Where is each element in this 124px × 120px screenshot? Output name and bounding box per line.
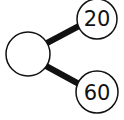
child-node-20: 20: [77, 0, 117, 39]
edge-root-to-20: [47, 26, 79, 43]
root-node: [6, 32, 50, 76]
child-node-60: 60: [76, 71, 118, 113]
edge-root-to-60: [46, 66, 79, 84]
tree-diagram: 20 60: [0, 0, 124, 120]
node-label-20: 20: [84, 7, 111, 31]
node-label-60: 60: [84, 81, 111, 105]
